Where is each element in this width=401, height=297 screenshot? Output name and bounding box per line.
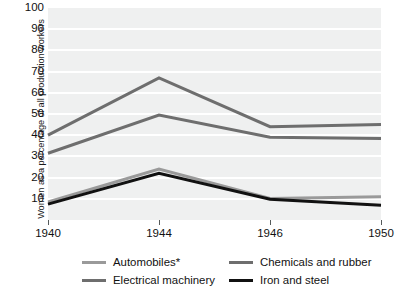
legend-swatch-icon [229,261,253,264]
x-axis-tick-label: 1946 [240,227,300,239]
chart-legend: Automobiles*Electrical machineryChemical… [82,254,382,292]
legend-item[interactable]: Automobiles* [82,254,180,270]
plot-area [48,8,381,220]
legend-swatch-icon [82,261,106,264]
x-axis-tick-label: 1944 [129,227,189,239]
legend-item[interactable]: Iron and steel [229,272,329,288]
y-axis-tick-label: 70 [2,66,44,78]
line-chart: Women as a percentage of all production … [0,0,401,297]
y-axis-tick-label: 20 [2,172,44,184]
y-axis-tick-label: 10 [2,193,44,205]
x-axis-tick: 1950 [351,220,401,239]
x-axis-tick-mark [159,220,160,225]
x-axis-tick-mark [270,220,271,225]
y-axis-tick-label: 30 [2,150,44,162]
x-axis-tick-label: 1950 [351,227,401,239]
x-axis-tick: 1946 [240,220,300,239]
legend-label: Iron and steel [260,274,329,286]
y-axis-tick-label: 100 [2,2,44,14]
x-axis-tick-mark [381,220,382,225]
x-axis-tick-label: 1940 [18,227,78,239]
x-axis-tick-labels: 1940194419461950 [48,220,381,246]
x-axis-tick: 1940 [18,220,78,239]
y-axis-tick-label: 90 [2,23,44,35]
legend-label: Automobiles* [113,256,180,268]
y-axis-tick-label: 50 [2,108,44,120]
legend-item[interactable]: Chemicals and rubber [229,254,371,270]
legend-label: Chemicals and rubber [260,256,371,268]
legend-swatch-icon [229,279,253,282]
x-axis-tick-mark [48,220,49,225]
y-axis-tick-label: 60 [2,87,44,99]
legend-label: Electrical machinery [113,274,215,286]
series-lines [48,8,381,220]
legend-swatch-icon [82,279,106,282]
y-axis-tick-labels: 100908070605040302010 [0,0,44,297]
legend-item[interactable]: Electrical machinery [82,272,215,288]
series-line [48,115,381,153]
x-axis-tick: 1944 [129,220,189,239]
y-axis-tick-label: 80 [2,44,44,56]
y-axis-tick-label: 40 [2,129,44,141]
series-line [48,173,381,205]
